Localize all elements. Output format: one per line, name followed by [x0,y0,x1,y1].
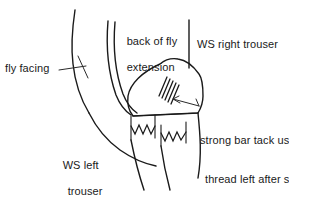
fly-extension-hem-line [133,113,198,116]
sewing-diagram: fly facing back of fly extension WS righ… [0,0,314,206]
bar-tack-leader-arrow [173,96,199,106]
label-ws-left-line-1: WS left [63,159,99,171]
label-ws-right-trouser: WS right trouser [197,38,278,51]
label-bar-tack-line-2: thread left after s [200,173,289,186]
zigzag-edge-right [161,122,186,146]
label-back-of-fly-line-2: extension [127,61,175,73]
label-strong-bar-tack: strong bar tack us thread left after s s… [200,108,289,206]
trouser-leg-line-left [131,140,144,190]
label-fly-facing: fly facing [5,62,49,75]
label-back-of-fly-extension: back of fly extension [114,22,177,87]
label-ws-left-trouser: WS left trouser [50,146,103,206]
label-bar-tack-line-1: strong bar tack us [200,134,289,147]
trouser-leg-line-middle [161,146,170,190]
label-back-of-fly-line-1: back of fly [127,35,178,47]
label-ws-left-line-2: trouser [63,185,103,197]
zigzag-edge-left [131,115,155,140]
